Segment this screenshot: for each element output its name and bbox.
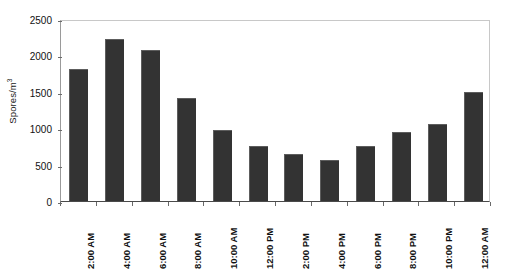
bar [141, 50, 160, 201]
y-axis-tick-label: 1500 [30, 87, 52, 98]
x-axis-tick-label: 8:00 AM [191, 207, 205, 269]
x-axis-tickmark [347, 202, 348, 206]
x-axis-tick-label: 12:00 AM [478, 207, 492, 269]
x-axis-tickmark [490, 202, 491, 206]
x-axis-tick-labels: 2:00 AM4:00 AM6:00 AM8:00 AM10:00 AM12:0… [60, 207, 490, 269]
x-axis-tick-label: 10:00 AM [227, 207, 241, 269]
x-axis-tickmark [132, 202, 133, 206]
bar-chart: Spores/m3 05001000150020002500 2:00 AM4:… [0, 0, 506, 276]
x-axis-tick-label: 6:00 PM [371, 207, 385, 269]
bar [284, 154, 303, 201]
x-axis-tickmark [239, 202, 240, 206]
x-axis-tickmark [203, 202, 204, 206]
y-axis-tick-label: 500 [35, 160, 52, 171]
x-axis-tickmark [96, 202, 97, 206]
y-axis-tick-label: 2000 [30, 51, 52, 62]
bar [392, 132, 411, 201]
bar [356, 146, 375, 201]
bar [105, 39, 124, 201]
x-axis-tickmark [418, 202, 419, 206]
bar [177, 98, 196, 201]
x-axis-tickmark [383, 202, 384, 206]
y-axis-tick-label: 2500 [30, 15, 52, 26]
x-axis-tick-label: 12:00 PM [263, 207, 277, 269]
y-axis-tickmark [58, 21, 62, 22]
x-axis-tick-label: 10:00 PM [442, 207, 456, 269]
bar [213, 130, 232, 201]
y-axis-tick-label: 0 [46, 197, 52, 208]
x-axis-tick-label: 8:00 PM [406, 207, 420, 269]
y-axis-tickmark [58, 57, 62, 58]
x-axis-tick-label: 6:00 AM [156, 207, 170, 269]
bar [249, 146, 268, 201]
bar [464, 92, 483, 201]
x-axis-tick-label: 4:00 PM [335, 207, 349, 269]
y-axis-title-exponent: 3 [6, 78, 13, 82]
x-axis-tick-label: 2:00 PM [299, 207, 313, 269]
y-axis-tickmark [58, 167, 62, 168]
x-axis-tickmark [60, 202, 61, 206]
bar [428, 124, 447, 201]
x-axis-tickmark [454, 202, 455, 206]
x-axis-tickmark [311, 202, 312, 206]
bars-layer [61, 21, 489, 201]
y-axis-title-text: Spores/m [7, 82, 18, 123]
x-axis-tickmark [168, 202, 169, 206]
x-axis-tick-label: 2:00 AM [84, 207, 98, 269]
plot-area [60, 20, 490, 202]
y-axis-tickmark [58, 94, 62, 95]
bar [320, 160, 339, 201]
y-axis-tick-labels: 05001000150020002500 [18, 20, 58, 202]
y-axis-tick-label: 1000 [30, 124, 52, 135]
x-axis-tickmark [275, 202, 276, 206]
y-axis-tickmark [58, 130, 62, 131]
bar [69, 69, 88, 201]
x-axis-tick-label: 4:00 AM [120, 207, 134, 269]
